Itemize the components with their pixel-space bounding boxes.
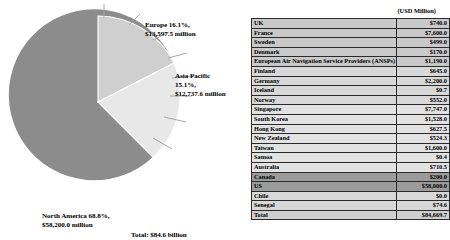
table-cell-name: New Zealand	[252, 134, 397, 144]
table-cell-name: Total	[252, 210, 397, 220]
table-row: Denmark$170.0	[252, 47, 450, 57]
table-cell-value: $58,000.0	[397, 182, 450, 192]
table-cell-value: $1,600.0	[397, 143, 450, 153]
table-row: Canada$200.0	[252, 172, 450, 182]
table-row: Taiwan$1,600.0	[252, 143, 450, 153]
pie-label-asia-line3: $12,737.6 million	[175, 90, 226, 99]
table-row: Iceland$0.7	[252, 86, 450, 96]
table-row: Finland$645.0	[252, 66, 450, 76]
table-cell-name: Samoa	[252, 153, 397, 163]
table-cell-name: Germany	[252, 76, 397, 86]
table-cell-value: $1,528.0	[397, 114, 450, 124]
table-cell-name: Singapore	[252, 105, 397, 115]
table-cell-value: $499.0	[397, 38, 450, 48]
table-cell-name: Denmark	[252, 47, 397, 57]
table-cell-value: $74.6	[397, 201, 450, 211]
table-cell-value: $7,747.0	[397, 105, 450, 115]
table-cell-name: Chile	[252, 191, 397, 201]
table-row: US$58,000.0	[252, 182, 450, 192]
table-cell-name: Canada	[252, 172, 397, 182]
pie-label-na-line2: $58,200.0 million	[42, 221, 110, 230]
table-cell-name: Senegal	[252, 201, 397, 211]
table-cell-name: Finland	[252, 66, 397, 76]
country-spend-table: UK$740.0France$7,600.0Sweden$499.0Denmar…	[251, 18, 450, 220]
pie-chart: Europe 16.1%, $13,597.5 million Asia Pac…	[12, 16, 184, 188]
table-row: New Zealand$524.3	[252, 134, 450, 144]
table-row: Singapore$7,747.0	[252, 105, 450, 115]
table-cell-name: Taiwan	[252, 143, 397, 153]
pie-label-na-line1: North America 68.8%,	[42, 212, 110, 221]
table-cell-value: $7,600.0	[397, 28, 450, 38]
pie-label-north-america: North America 68.8%, $58,200.0 million	[42, 212, 110, 230]
table-row: Sweden$499.0	[252, 38, 450, 48]
table-row: Germany$2,200.0	[252, 76, 450, 86]
table-cell-value: $84,669.7	[397, 210, 450, 220]
table-row: Australia$710.5	[252, 162, 450, 172]
table-row: Hong Kong$627.5	[252, 124, 450, 134]
table-row: European Air Navigation Service Provider…	[252, 57, 450, 67]
table-row: France$7,600.0	[252, 28, 450, 38]
pie-label-asia-pacific: Asia Pacific 15.1%, $12,737.6 million	[175, 72, 226, 100]
table-cell-name: Australia	[252, 162, 397, 172]
table-cell-value: $645.0	[397, 66, 450, 76]
table-cell-value: $710.5	[397, 162, 450, 172]
table-row: South Korea$1,528.0	[252, 114, 450, 124]
table-cell-value: $0.0	[397, 191, 450, 201]
pie-label-europe-line2: $13,597.5 million	[145, 30, 196, 39]
table-row: Senegal$74.6	[252, 201, 450, 211]
table-cell-value: $1,190.0	[397, 57, 450, 67]
table-cell-value: $0.4	[397, 153, 450, 163]
table-row: Norway$552.0	[252, 95, 450, 105]
table-cell-name: European Air Navigation Service Provider…	[252, 57, 397, 67]
table-cell-name: Sweden	[252, 38, 397, 48]
units-label: (USD Million)	[397, 7, 436, 14]
table-cell-value: $170.0	[397, 47, 450, 57]
pie-label-asia-line2: 15.1%,	[175, 81, 226, 90]
table-row: Total$84,669.7	[252, 210, 450, 220]
table-cell-value: $0.7	[397, 86, 450, 96]
table-cell-name: France	[252, 28, 397, 38]
table-row: Samoa$0.4	[252, 153, 450, 163]
pie-label-europe: Europe 16.1%, $13,597.5 million	[145, 21, 196, 39]
pie-chart-panel: Europe 16.1%, $13,597.5 million Asia Pac…	[0, 0, 250, 240]
table-cell-value: $524.3	[397, 134, 450, 144]
table-row: Chile$0.0	[252, 191, 450, 201]
pie-label-europe-line1: Europe 16.1%,	[145, 21, 196, 30]
pie-label-asia-line1: Asia Pacific	[175, 72, 226, 81]
pie-chart-svg	[12, 16, 184, 188]
table-cell-name: Hong Kong	[252, 124, 397, 134]
table-cell-name: Iceland	[252, 86, 397, 96]
table-cell-value: $2,200.0	[397, 76, 450, 86]
pie-total-caption: Total: $84.6 billion	[131, 231, 187, 240]
table-row: UK$740.0	[252, 19, 450, 29]
data-table-panel: (USD Million) UK$740.0France$7,600.0Swed…	[248, 0, 442, 240]
table-cell-name: South Korea	[252, 114, 397, 124]
table-cell-name: Norway	[252, 95, 397, 105]
table-cell-value: $552.0	[397, 95, 450, 105]
table-body: UK$740.0France$7,600.0Sweden$499.0Denmar…	[252, 19, 450, 220]
table-cell-value: $200.0	[397, 172, 450, 182]
table-cell-value: $740.0	[397, 19, 450, 29]
table-cell-name: UK	[252, 19, 397, 29]
table-cell-value: $627.5	[397, 124, 450, 134]
table-cell-name: US	[252, 182, 397, 192]
